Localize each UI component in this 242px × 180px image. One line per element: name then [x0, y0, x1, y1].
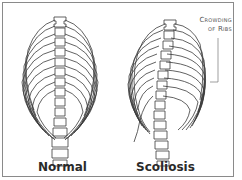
scoliosis-ribs-left [128, 24, 165, 142]
scoliosis-ribcage [128, 20, 206, 166]
scoliosis-spine [154, 20, 176, 166]
scoliosis-ribs-right [163, 24, 206, 130]
normal-ribs-right [64, 20, 98, 140]
normal-label: Normal [38, 160, 87, 174]
scoliosis-label: Scoliosis [136, 160, 195, 174]
annotation-line-1: Crowding [176, 16, 232, 25]
normal-spine [52, 17, 68, 166]
annotation-leader-line [210, 38, 218, 82]
annotation-line-2: of Ribs [176, 25, 232, 34]
crowding-of-ribs-annotation: Crowding of Ribs [176, 16, 232, 34]
normal-ribs-left [22, 20, 56, 140]
normal-ribcage [22, 17, 98, 166]
